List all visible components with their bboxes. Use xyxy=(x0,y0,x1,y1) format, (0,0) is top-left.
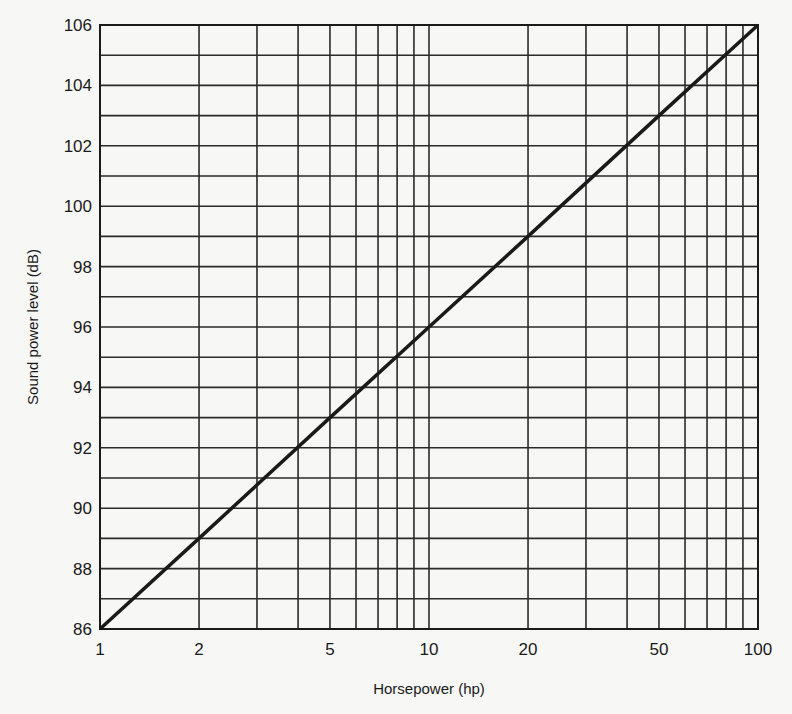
x-tick-label: 1 xyxy=(95,640,104,659)
y-tick-label: 98 xyxy=(73,258,92,277)
y-axis-label: Sound power level (dB) xyxy=(24,249,41,405)
y-tick-label: 94 xyxy=(73,378,92,397)
y-tick-label: 106 xyxy=(64,16,92,35)
x-tick-label: 100 xyxy=(744,640,772,659)
y-tick-label: 100 xyxy=(64,197,92,216)
x-axis-label: Horsepower (hp) xyxy=(373,680,485,697)
x-tick-label: 50 xyxy=(650,640,669,659)
y-tick-label: 92 xyxy=(73,439,92,458)
y-tick-label: 90 xyxy=(73,499,92,518)
x-tick-label: 10 xyxy=(420,640,439,659)
chart: 86889092949698100102104106 125102050100 … xyxy=(0,0,792,714)
y-tick-label: 102 xyxy=(64,137,92,156)
x-tick-label: 5 xyxy=(325,640,334,659)
y-tick-label: 86 xyxy=(73,620,92,639)
x-axis-ticks: 125102050100 xyxy=(95,640,772,659)
x-tick-label: 20 xyxy=(519,640,538,659)
y-tick-label: 88 xyxy=(73,560,92,579)
y-tick-label: 104 xyxy=(64,76,92,95)
y-axis-ticks: 86889092949698100102104106 xyxy=(64,16,92,639)
y-tick-label: 96 xyxy=(73,318,92,337)
x-tick-label: 2 xyxy=(194,640,203,659)
